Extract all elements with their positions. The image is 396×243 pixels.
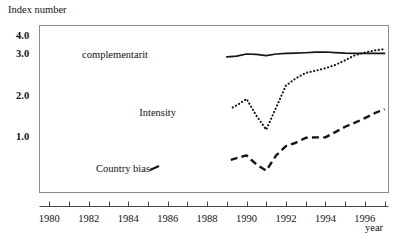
series-label-intensity: Intensity [139, 107, 176, 118]
y-tick-label: 2.0 [16, 90, 29, 101]
x-tick-label: 1984 [118, 213, 140, 224]
x-tick-labels: 198019821984198619881990199219941996 [39, 213, 375, 224]
y-axis-title: Index number [8, 4, 67, 15]
series-annotations: complementarit Intensity Country bias [82, 49, 177, 174]
x-tick-label: 1994 [315, 213, 337, 224]
x-tick-label: 1986 [157, 213, 178, 224]
annotation-leaders [150, 166, 159, 170]
line-chart: Index number 4.0 3.0 2.0 1.0 19801982198… [0, 0, 396, 243]
x-axis-title: year [365, 222, 384, 233]
x-tick-label: 1988 [197, 213, 218, 224]
chart-container: Index number 4.0 3.0 2.0 1.0 19801982198… [0, 0, 396, 243]
x-axis-tickmarks [50, 202, 386, 207]
x-axis [40, 202, 389, 207]
series-line-intensity [233, 49, 385, 129]
y-tick-label: 4.0 [16, 30, 29, 41]
x-tick-label: 1982 [78, 213, 99, 224]
series-label-country-bias: Country bias [96, 163, 150, 174]
x-tick-label: 1980 [39, 213, 60, 224]
series-line-country-bias [231, 109, 385, 170]
x-tick-label: 1992 [275, 213, 296, 224]
y-tick-label: 3.0 [16, 48, 29, 59]
leader-country-bias [150, 166, 159, 170]
y-tick-label: 1.0 [16, 131, 29, 142]
y-tick-labels: 4.0 3.0 2.0 1.0 [16, 30, 29, 142]
series-group [227, 49, 385, 170]
x-tick-label: 1990 [236, 213, 257, 224]
series-label-complementarit: complementarit [82, 49, 148, 60]
